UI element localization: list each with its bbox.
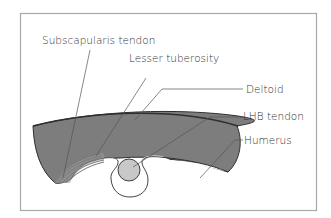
label-humerus: Humerus [244, 134, 292, 146]
label-lesser-tuberosity: Lesser tuberosity [129, 52, 219, 64]
lhb-tendon-circle [118, 159, 140, 181]
label-lhb-tendon: LHB tendon [243, 110, 304, 122]
shoulder-diagram: Subscapularis tendon Lesser tuberosity D… [0, 0, 331, 218]
label-subscapularis-tendon: Subscapularis tendon [42, 34, 155, 46]
label-deltoid: Deltoid [246, 83, 284, 95]
